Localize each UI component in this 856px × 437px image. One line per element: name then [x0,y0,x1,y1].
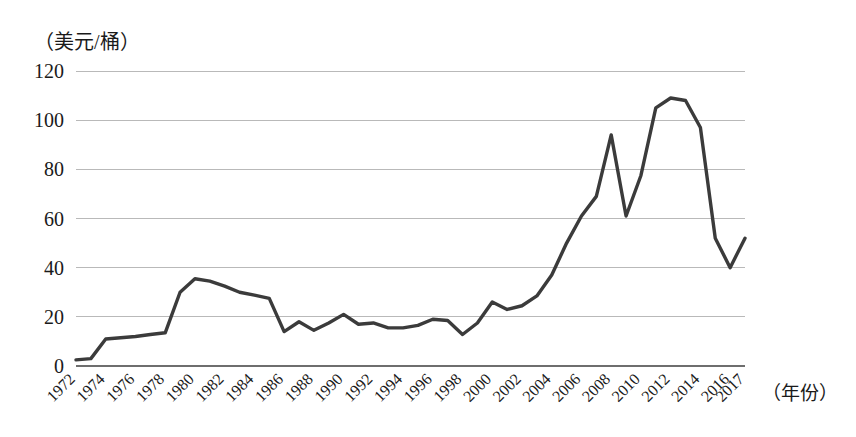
x-axis-tick-label: 1976 [103,370,138,405]
x-axis-tick-label: 1990 [311,370,346,405]
oil-price-chart-figure: （美元/桶） （年份） 020406080100120 197219741976… [0,0,856,437]
x-axis-tick-label: 1992 [341,370,376,405]
chart-plot-area: 020406080100120 197219741976197819801982… [0,0,856,437]
oil-price-line-series [76,98,745,360]
y-axis-tick-label: 80 [44,158,64,180]
x-axis-tick-label: 1998 [430,370,465,405]
x-axis-tick-label: 1980 [162,370,197,405]
x-axis-tick-label: 1986 [252,370,287,405]
y-axis-tick-label: 20 [44,306,64,328]
gridlines-group [76,71,745,366]
y-axis-tick-label: 40 [44,257,64,279]
x-axis-tick-label: 2012 [638,370,673,405]
x-axis-tick-labels: 1972197419761978198019821984198619881990… [43,370,747,405]
y-axis-tick-labels: 020406080100120 [34,60,64,377]
x-axis-tick-label: 2008 [579,370,614,405]
x-axis-tick-label: 1984 [222,370,257,405]
x-axis-tick-label: 2000 [460,370,495,405]
x-axis-tick-label: 1972 [43,370,78,405]
x-axis-tick-label: 1996 [400,370,435,405]
x-axis-tick-label: 1988 [281,370,316,405]
x-axis-tick-label: 2006 [549,370,584,405]
x-axis-tick-label: 1994 [371,370,406,405]
y-axis-tick-label: 100 [34,109,64,131]
x-axis-tick-label: 2014 [668,370,703,405]
x-axis-tick-label: 1982 [192,370,227,405]
y-axis-tick-label: 60 [44,208,64,230]
x-axis-tick-label: 2002 [489,370,524,405]
x-axis-tick-label: 1974 [73,370,108,405]
x-axis-tick-label: 2004 [519,370,554,405]
x-axis-tick-label: 1978 [133,370,168,405]
x-axis-tick-label: 2010 [608,370,643,405]
y-axis-tick-label: 120 [34,60,64,82]
